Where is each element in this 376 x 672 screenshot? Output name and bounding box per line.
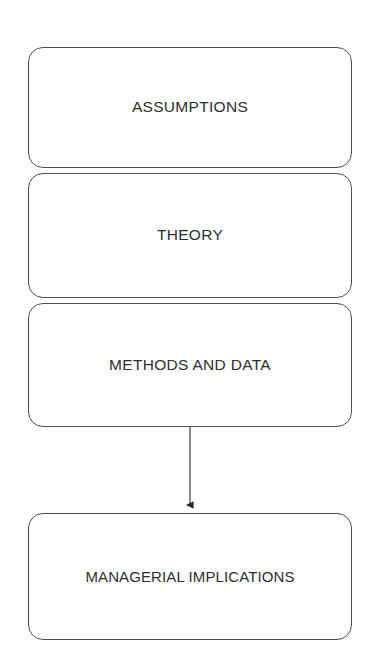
node-methods-and-data-label: METHODS AND DATA [109,356,271,375]
node-theory-label: THEORY [157,226,223,245]
node-managerial-implications-label: MANAGERIAL IMPLICATIONS [85,568,294,586]
node-assumptions-label: ASSUMPTIONS [132,98,248,117]
node-theory[interactable]: THEORY [28,173,352,298]
node-assumptions[interactable]: ASSUMPTIONS [28,47,352,168]
node-methods-and-data[interactable]: METHODS AND DATA [28,303,352,427]
flowchart-diagram: ASSUMPTIONS THEORY METHODS AND DATA MANA… [0,0,376,672]
node-managerial-implications[interactable]: MANAGERIAL IMPLICATIONS [28,513,352,640]
